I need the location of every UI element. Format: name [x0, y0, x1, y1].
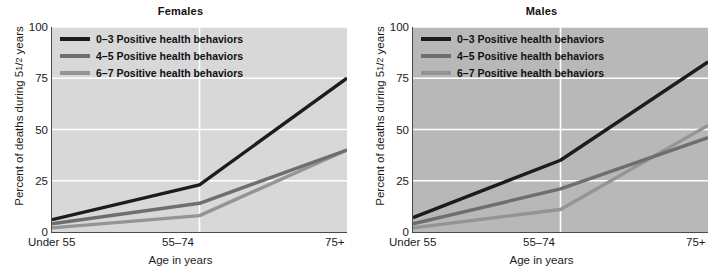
chart-panel-males: Males Percent of deaths during 51/2 year… — [361, 0, 722, 277]
x-axis-label-females: Age in years — [0, 254, 361, 266]
y-tick-75: 75 — [22, 72, 48, 84]
legend-label-4-5: 4–5 Positive health behaviors — [457, 50, 604, 62]
legend-item-4-5: 4–5 Positive health behaviors — [421, 50, 604, 62]
x-tick-75-plus: 75+ — [325, 236, 345, 248]
chart-panel-females: Females Percent of deaths during 51/2 ye… — [0, 0, 361, 277]
legend-label-6-7: 6–7 Positive health behaviors — [457, 67, 604, 79]
x-tick-75-plus: 75+ — [686, 236, 706, 248]
y-tick-25: 25 — [383, 175, 409, 187]
legend-males: 0–3 Positive health behaviors 4–5 Positi… — [421, 33, 604, 79]
legend-item-6-7: 6–7 Positive health behaviors — [421, 67, 604, 79]
panel-title-females: Females — [0, 5, 361, 17]
legend-swatch-0-3 — [421, 37, 451, 41]
legend-females: 0–3 Positive health behaviors 4–5 Positi… — [60, 33, 243, 79]
legend-label-6-7: 6–7 Positive health behaviors — [96, 67, 243, 79]
legend-label-0-3: 0–3 Positive health behaviors — [457, 33, 604, 45]
x-axis-label-males: Age in years — [361, 254, 722, 266]
legend-swatch-4-5 — [421, 54, 451, 58]
x-tick-55-74: 55–74 — [162, 236, 194, 248]
y-tick-75: 75 — [383, 72, 409, 84]
x-axis-line-females — [51, 232, 347, 233]
x-tick-under-55: Under 55 — [28, 236, 75, 248]
x-axis-line-males — [412, 232, 708, 233]
legend-item-0-3: 0–3 Positive health behaviors — [60, 33, 243, 45]
x-tick-under-55: Under 55 — [389, 236, 436, 248]
two-panel-line-chart-figure: Females Percent of deaths during 51/2 ye… — [0, 0, 722, 277]
panel-title-males: Males — [361, 5, 722, 17]
legend-item-4-5: 4–5 Positive health behaviors — [60, 50, 243, 62]
legend-label-4-5: 4–5 Positive health behaviors — [96, 50, 243, 62]
legend-label-0-3: 0–3 Positive health behaviors — [96, 33, 243, 45]
legend-item-6-7: 6–7 Positive health behaviors — [60, 67, 243, 79]
legend-swatch-6-7 — [60, 71, 90, 75]
legend-swatch-4-5 — [60, 54, 90, 58]
y-tick-25: 25 — [22, 175, 48, 187]
y-tick-50: 50 — [383, 124, 409, 136]
legend-item-0-3: 0–3 Positive health behaviors — [421, 33, 604, 45]
legend-swatch-0-3 — [60, 37, 90, 41]
y-tick-100: 100 — [22, 21, 48, 33]
y-tick-100: 100 — [383, 21, 409, 33]
x-tick-55-74: 55–74 — [523, 236, 555, 248]
legend-swatch-6-7 — [421, 71, 451, 75]
y-tick-50: 50 — [22, 124, 48, 136]
